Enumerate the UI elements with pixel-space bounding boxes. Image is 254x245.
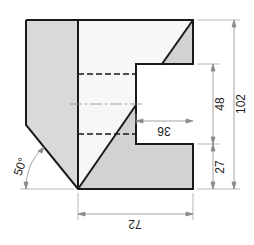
dim-label-72: 72 — [128, 217, 142, 231]
left-face — [26, 20, 78, 189]
dim-label-36: 36 — [157, 124, 171, 138]
dim-label-48: 48 — [213, 97, 227, 111]
dim-label-27: 27 — [213, 160, 227, 174]
technical-drawing: 102 48 27 36 72 50° — [0, 0, 254, 245]
dim-label-102: 102 — [234, 94, 248, 114]
